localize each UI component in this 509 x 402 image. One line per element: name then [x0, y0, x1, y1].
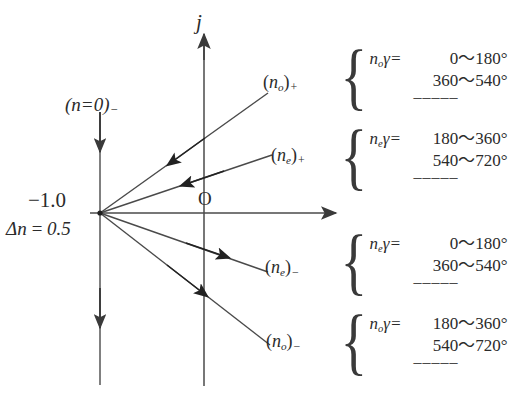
ray-label-close-paren: )	[287, 331, 293, 351]
curly-brace-icon: {	[340, 231, 367, 292]
annotation-group-ne-plus: { neγ= 180～360° 540～720° –––––	[336, 124, 508, 188]
annotation-body: noγ= 0～180° 360～540° –––––	[370, 44, 508, 108]
annotation-row: 540～720°	[370, 331, 508, 353]
ray-label-no-plus: (no)+	[263, 73, 297, 93]
annotation-row: noγ= 0～180°	[370, 44, 508, 66]
annotation-group-ne-minus: { neγ= 0～180° 360～540° –––––	[336, 229, 508, 293]
ray-ne-plus-arrowhead	[186, 171, 224, 184]
ray-label-sign: +	[297, 153, 305, 167]
annotation-row: 540～720°	[370, 146, 508, 168]
annotation-continuation: –––––	[370, 88, 508, 108]
ray-label-no-minus: (no)−	[266, 332, 300, 352]
ray-label-close-paren: )	[284, 72, 290, 92]
n-equals-zero-label: (n=0)−	[65, 95, 118, 116]
annotation-body: noγ= 180～360° 540～720° –––––	[370, 309, 508, 373]
annotation-row: 360～540°	[370, 251, 508, 273]
annotation-row: neγ= 180～360°	[370, 124, 508, 146]
annotation-continuation: –––––	[370, 168, 508, 188]
ray-ne-minus-arrowhead	[186, 243, 224, 256]
origin-label: O	[198, 189, 212, 208]
curly-brace-icon: {	[340, 126, 367, 187]
ray-label-base: n	[277, 145, 286, 165]
ray-no-plus-arrowhead	[172, 138, 205, 162]
delta-n-value: Δn = 0.5	[6, 219, 71, 238]
ray-no-minus-arrowhead	[167, 265, 203, 293]
annotation-row: 360～540°	[370, 66, 508, 88]
annotation-continuation: –––––	[370, 273, 508, 293]
imaginary-axis-label: j	[196, 12, 202, 33]
annotation-body: neγ= 180～360° 540～720° –––––	[370, 124, 508, 188]
curly-brace-icon: {	[340, 311, 367, 372]
curly-brace-icon: {	[340, 46, 367, 107]
ray-label-sign: −	[293, 339, 301, 353]
fan-origin-node	[97, 210, 102, 215]
annotation-row: neγ= 0～180°	[370, 229, 508, 251]
ray-label-ne-minus: (ne)−	[265, 258, 299, 278]
value-minus-one: −1.0	[28, 190, 66, 211]
ray-label-base: n	[271, 257, 280, 277]
ray-label-ne-plus: (ne)+	[271, 146, 305, 166]
annotation-row: noγ= 180～360°	[370, 309, 508, 331]
annotation-body: neγ= 0～180° 360～540° –––––	[370, 229, 508, 293]
annotation-continuation: –––––	[370, 353, 508, 373]
figure-canvas: j O (n=0)− −1.0 Δn = 0.5 (no)+ (ne)+ (ne…	[0, 0, 509, 402]
annotation-group-no-minus: { noγ= 180～360° 540～720° –––––	[336, 309, 508, 373]
ray-label-sign: +	[290, 80, 298, 94]
ray-label-sign: −	[291, 265, 299, 279]
n-equals-zero-text: (n=0)	[65, 94, 109, 115]
ray-label-base: n	[269, 72, 278, 92]
ray-ne-minus	[100, 213, 268, 272]
n-equals-zero-sign: −	[109, 103, 117, 117]
ray-label-base: n	[272, 331, 281, 351]
annotation-group-no-plus: { noγ= 0～180° 360～540° –––––	[336, 44, 508, 108]
